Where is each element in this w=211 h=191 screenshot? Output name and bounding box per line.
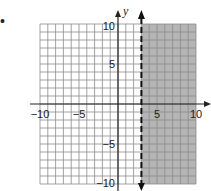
y-axis-arrow-icon	[115, 10, 121, 17]
x-tick-label: −10	[31, 108, 50, 120]
y-tick-label: 5	[109, 58, 115, 70]
y-tick-label: −5	[102, 138, 115, 150]
inequality-graph: y −10−5510105−5−10	[0, 0, 211, 191]
x-tick-label: −5	[73, 108, 86, 120]
boundary-arrow-up-icon	[138, 10, 145, 19]
y-tick-label: 10	[103, 20, 115, 32]
x-axis-arrow-icon	[204, 101, 211, 107]
x-tick-label: 10	[190, 108, 202, 120]
y-axis-label: y	[122, 4, 129, 18]
boundary-arrow-down-icon	[138, 183, 145, 191]
x-tick-label: 5	[154, 108, 160, 120]
y-tick-label: −10	[96, 177, 115, 189]
